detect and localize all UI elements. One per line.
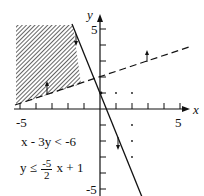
inequality-1-label: x - 3y < -6 [21,134,76,150]
x-tick-label-neg5: -5 [16,115,27,130]
y-tick-label-5: 5 [91,22,98,37]
arrow-down-icon [116,137,120,150]
inequality-2-fraction: -5 2 [41,158,52,181]
x-tick-label-5: 5 [175,115,182,130]
shaded-solution-region [16,25,81,105]
inequality-2-label: y ≤ -5 2 x + 1 [20,158,83,181]
y-axis-arrow-icon [97,14,103,22]
inequality-2-lhs: y ≤ [20,160,37,175]
arrow-up-icon [145,50,149,62]
x-axis-label: x [192,102,199,117]
x-axis [14,103,190,112]
y-tick-label-neg5: -5 [86,182,97,196]
y-axis-label: y [85,7,93,22]
x-axis-arrow-icon [182,106,190,112]
fraction-denominator: 2 [41,170,52,181]
inequality-2-rhs: x + 1 [57,160,84,175]
